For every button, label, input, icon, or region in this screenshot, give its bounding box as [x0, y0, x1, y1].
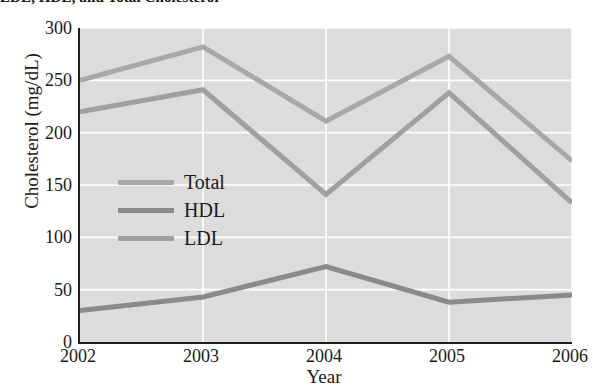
- legend-swatch-icon: [118, 180, 174, 185]
- legend-item-ldl[interactable]: LDL: [118, 224, 288, 252]
- chart-figure: LDL, HDL, and Total Cholesterol 30025020…: [0, 0, 593, 389]
- y-tick-label: 50: [26, 281, 72, 299]
- legend-label: Total: [184, 172, 225, 192]
- chart-legend: TotalHDLLDL: [118, 168, 288, 252]
- x-axis-label: Year: [78, 366, 570, 388]
- x-tick-label: 2002: [43, 346, 113, 366]
- x-tick-label: 2006: [535, 346, 593, 366]
- legend-item-total[interactable]: Total: [118, 168, 288, 196]
- legend-label: HDL: [184, 200, 225, 220]
- legend-swatch-icon: [118, 236, 174, 241]
- x-tick-label: 2003: [166, 346, 236, 366]
- y-axis-label: Cholesterol (mg/dL): [21, 1, 43, 261]
- legend-item-hdl[interactable]: HDL: [118, 196, 288, 224]
- x-tick-label: 2005: [412, 346, 482, 366]
- legend-swatch-icon: [118, 208, 174, 213]
- chart-title: LDL, HDL, and Total Cholesterol: [0, 0, 330, 8]
- x-tick-label: 2004: [289, 346, 359, 366]
- legend-label: LDL: [184, 228, 223, 248]
